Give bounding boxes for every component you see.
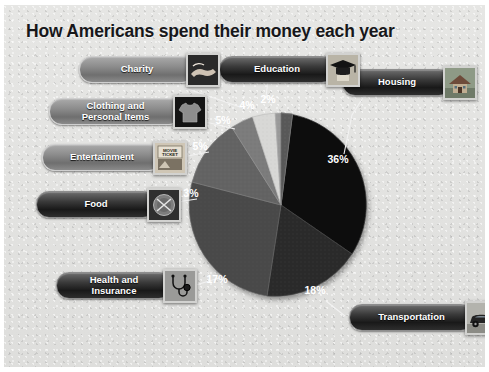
house-icon — [443, 66, 477, 100]
pie-label-clothing: 5% — [215, 114, 231, 126]
movie-ticket-icon: MOVIE TICKET — [153, 141, 187, 175]
callout-label-education: Education — [254, 64, 300, 75]
helping-hands-icon — [186, 53, 220, 87]
callout-clothing[interactable]: Clothing and Personal Items — [49, 99, 207, 124]
callout-pill-food[interactable]: Food — [36, 191, 156, 218]
callout-pill-transportation[interactable]: Transportation — [349, 304, 474, 331]
callout-label-housing: Housing — [378, 77, 416, 88]
tshirt-icon — [173, 95, 207, 129]
callout-label-entertainment: Entertainment — [70, 152, 134, 163]
callout-charity[interactable]: Charity — [79, 57, 220, 82]
graduation-cap-icon — [326, 53, 360, 87]
leader-line-transportation — [326, 301, 345, 316]
callout-label-food: Food — [84, 199, 107, 210]
callout-pill-clothing[interactable]: Clothing and Personal Items — [49, 98, 182, 125]
callout-label-health: Health and Insurance — [90, 275, 139, 296]
pie-label-health: 17% — [206, 273, 228, 285]
pie-label-charity: 4% — [239, 99, 255, 111]
callout-education[interactable]: Education — [219, 57, 360, 82]
pie-slices — [189, 113, 373, 297]
callout-entertainment[interactable]: Entertainment MOVIE TICKET — [42, 145, 187, 170]
callout-pill-charity[interactable]: Charity — [79, 56, 195, 83]
callout-label-charity: Charity — [121, 64, 154, 75]
callout-pill-health[interactable]: Health and Insurance — [56, 272, 172, 299]
callout-transportation[interactable]: Transportation — [349, 305, 485, 330]
callout-pill-education[interactable]: Education — [219, 56, 335, 83]
infographic-poster: How Americans spend their money each yea… — [4, 5, 485, 367]
callout-label-transportation: Transportation — [378, 312, 445, 323]
stethoscope-icon — [163, 269, 197, 303]
plate-utensils-icon — [147, 188, 181, 222]
callout-health[interactable]: Health and Insurance — [56, 273, 197, 298]
pie-label-entertainment: 5% — [192, 140, 208, 152]
pie-grain-overlay — [189, 113, 373, 297]
pie-label-transportation: 18% — [304, 284, 326, 296]
car-icon — [465, 301, 485, 335]
callout-pill-entertainment[interactable]: Entertainment — [42, 144, 162, 171]
pie-label-education: 2% — [260, 93, 276, 105]
pie-label-housing: 36% — [327, 153, 349, 165]
callout-label-clothing: Clothing and Personal Items — [82, 101, 150, 122]
svg-text:TICKET: TICKET — [162, 152, 178, 157]
callout-housing[interactable]: Housing — [342, 70, 477, 95]
callout-food[interactable]: Food — [36, 192, 181, 217]
